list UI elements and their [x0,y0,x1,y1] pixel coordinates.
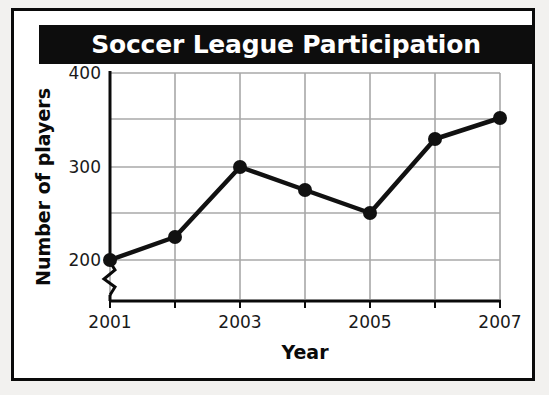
x-tick-label-2007: 2007 [478,312,521,332]
data-point [103,253,117,267]
y-tick-label-300: 300 [69,157,101,177]
x-tick-label-2001: 2001 [88,312,131,332]
data-point [428,132,442,146]
y-axis-title: Number of players [32,88,54,286]
data-point [233,160,247,174]
y-tick-label-400: 400 [69,63,101,83]
chart-card: Soccer League Participation [11,8,535,381]
chart-figure: Soccer League Participation [0,0,549,395]
plot-area: 400 300 200 2001 2003 2005 2007 Year Num… [14,11,532,378]
data-point [493,111,507,125]
y-tick-label-200: 200 [69,250,101,270]
x-axis-title: Year [280,341,329,363]
x-tick-label-2005: 2005 [348,312,391,332]
data-point [298,183,312,197]
data-point [168,230,182,244]
x-tick-label-2003: 2003 [218,312,261,332]
data-point [363,206,377,220]
